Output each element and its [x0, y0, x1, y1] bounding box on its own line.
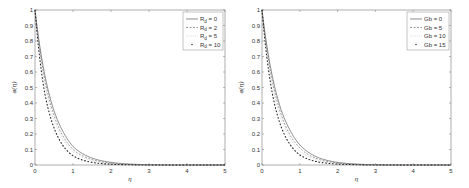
- right-chart: 01234500.10.20.30.40.50.60.70.80.91ηφ(η)…: [235, 0, 469, 188]
- x-tick-label: 3: [374, 168, 378, 174]
- x-tick-label: 5: [223, 168, 227, 174]
- y-tick-label: 0.6: [252, 69, 261, 75]
- y-tick-label: 1: [30, 7, 34, 13]
- legend-item-label: Gb = 0: [424, 16, 443, 22]
- y-axis-label: φ(η): [237, 81, 245, 94]
- legend-item-label: Gb = 15: [424, 42, 446, 48]
- legend: Gb = 0Gb = 5Gb = 10Gb = 15: [407, 12, 449, 50]
- y-tick-label: 0.5: [252, 85, 261, 91]
- left-chart-panel: 01234500.10.20.30.40.50.60.70.80.91ηφ(η)…: [0, 0, 234, 188]
- y-tick-label: 0.3: [252, 116, 261, 122]
- left-chart: 01234500.10.20.30.40.50.60.70.80.91ηφ(η)…: [0, 0, 234, 188]
- y-tick-label: 0.8: [25, 38, 34, 44]
- y-tick-label: 0.1: [25, 147, 34, 153]
- x-tick-label: 2: [336, 168, 340, 174]
- right-chart-panel: 01234500.10.20.30.40.50.60.70.80.91ηφ(η)…: [235, 0, 469, 188]
- y-tick-label: 0.9: [252, 23, 261, 29]
- y-tick-label: 0.2: [25, 131, 34, 137]
- x-tick-label: 1: [298, 168, 302, 174]
- y-tick-label: 1: [257, 7, 261, 13]
- y-tick-label: 0.4: [252, 100, 261, 106]
- y-tick-label: 0.3: [25, 116, 34, 122]
- legend-item-label: Gb = 5: [424, 25, 443, 31]
- x-tick-label: 3: [147, 168, 151, 174]
- y-tick-label: 0.6: [25, 69, 34, 75]
- x-tick-label: 4: [185, 168, 189, 174]
- y-tick-label: 0.5: [25, 85, 34, 91]
- y-tick-label: 0.9: [25, 23, 34, 29]
- x-tick-label: 5: [449, 168, 453, 174]
- y-tick-label: 0.4: [25, 100, 34, 106]
- y-axis-label: φ(η): [10, 81, 18, 94]
- x-axis-label: η: [355, 175, 359, 183]
- y-tick-label: 0.1: [252, 147, 261, 153]
- y-tick-label: 0.7: [25, 54, 34, 60]
- x-tick-label: 0: [33, 168, 37, 174]
- x-tick-label: 4: [412, 168, 416, 174]
- legend: Rd = 0Rd = 2Rd = 5Rd = 10: [183, 12, 223, 50]
- x-tick-label: 2: [109, 168, 113, 174]
- y-tick-label: 0.7: [252, 54, 261, 60]
- x-axis-label: η: [128, 175, 132, 183]
- x-tick-label: 1: [71, 168, 75, 174]
- y-tick-label: 0.2: [252, 131, 261, 137]
- y-tick-label: 0.8: [252, 38, 261, 44]
- legend-item-label: Gb = 10: [424, 33, 446, 39]
- x-tick-label: 0: [260, 168, 264, 174]
